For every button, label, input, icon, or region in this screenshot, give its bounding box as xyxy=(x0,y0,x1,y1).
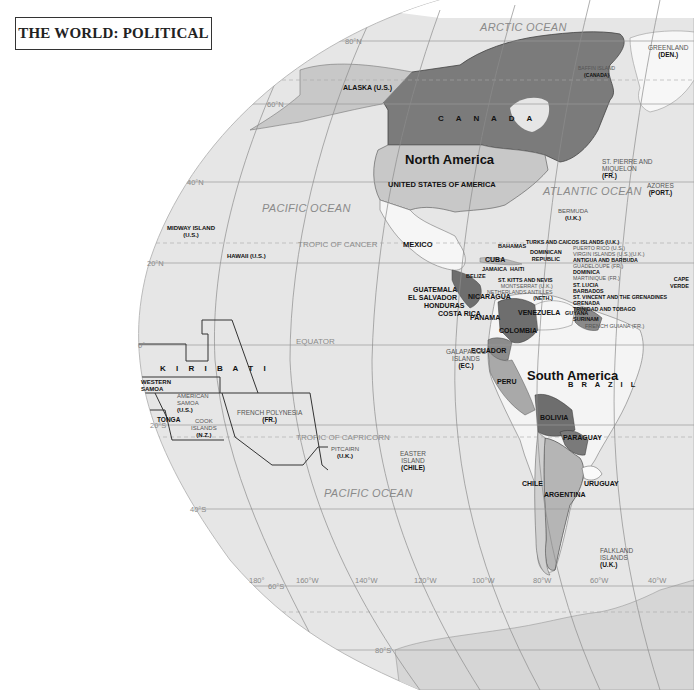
lat-60s: 60°S xyxy=(268,582,284,591)
paraguay-label: PARAGUAY xyxy=(563,434,602,441)
hawaii-label: HAWAII (U.S.) xyxy=(227,253,266,260)
lesser-antilles-list: PUERTO RICO (U.S.) VIRGIN ISLANDS (U.S.)… xyxy=(573,245,667,312)
easter-island-label: EASTER ISLAND (CHILE) xyxy=(400,450,426,471)
lat-80s: 80°S xyxy=(375,646,391,655)
equator-label: EQUATOR xyxy=(296,337,335,346)
st-pierre-miquelon-label: ST. PIERRE AND MIQUELON (FR.) xyxy=(602,158,653,179)
uruguay-label: URUGUAY xyxy=(584,480,619,487)
lat-20n: 20°N xyxy=(147,259,164,268)
haiti-label: HAITI xyxy=(510,266,524,273)
lon-180: 180° xyxy=(249,576,265,585)
map-title-box: THE WORLD: POLITICAL xyxy=(15,17,212,50)
lon-100w: 100°W xyxy=(472,576,495,585)
midway-island-label: MIDWAY ISLAND (U.S.) xyxy=(167,225,215,239)
cape-verde-label: CAPE VERDE xyxy=(670,276,689,290)
el-salvador-label: EL SALVADOR xyxy=(408,294,457,301)
map-title: THE WORLD: POLITICAL xyxy=(18,25,208,42)
cuba-label: CUBA xyxy=(485,256,505,263)
pacific-ocean-north-label: PACIFIC OCEAN xyxy=(262,202,351,214)
pacific-ocean-south-label: PACIFIC OCEAN xyxy=(324,487,413,499)
western-samoa-label: WESTERN SAMOA xyxy=(141,379,171,393)
colombia-label: COLOMBIA xyxy=(499,327,537,334)
belize-label: BELIZE xyxy=(466,273,486,280)
french-guiana-label: FRENCH GUIANA (FR.) xyxy=(585,323,644,330)
bolivia-label: BOLIVIA xyxy=(540,414,568,421)
tropic-of-capricorn-label: TROPIC OF CAPRICORN xyxy=(296,433,390,442)
world-map xyxy=(0,0,694,690)
greenland-label: GREENLAND (DEN.) xyxy=(648,44,688,58)
lon-60w: 60°W xyxy=(590,576,608,585)
guatemala-label: GUATEMALA xyxy=(413,286,457,293)
leeward-islands-labels: ST. KITTS AND NEVIS MONTSERRAT (U.K.) NE… xyxy=(487,277,553,301)
venezuela-label: VENEZUELA xyxy=(518,309,560,316)
falkland-islands-label: FALKLAND ISLANDS (U.K.) xyxy=(600,547,633,568)
brazil-label: B R A Z I L xyxy=(568,380,638,389)
lat-40s: 40°S xyxy=(190,505,206,514)
mexico-label: MEXICO xyxy=(403,241,433,248)
panama-label: PANAMA xyxy=(470,314,500,321)
tropic-of-cancer-label: TROPIC OF CANCER xyxy=(298,240,378,249)
canada-label: C A N A D A xyxy=(438,114,537,123)
atlantic-ocean-label: ATLANTIC OCEAN xyxy=(543,185,642,197)
lat-40n: 40°N xyxy=(187,178,204,187)
lat-80n: 80°N xyxy=(345,37,362,46)
lat-60n: 60°N xyxy=(267,100,284,109)
peru-label: PERU xyxy=(497,378,516,385)
surinam-label: SURINAM xyxy=(573,316,599,323)
cook-islands-label: COOK ISLANDS (N.Z.) xyxy=(191,418,217,439)
french-polynesia-label: FRENCH POLYNESIA (FR.) xyxy=(237,409,302,423)
north-america-label: North America xyxy=(405,152,494,167)
lat-0: 0° xyxy=(138,341,145,350)
lon-160w: 160°W xyxy=(296,576,319,585)
alaska-label: ALASKA (U.S.) xyxy=(343,84,392,91)
galapagos-label: GALAPAGOS ISLANDS (EC.) xyxy=(446,348,486,369)
tonga-label: TONGA xyxy=(157,416,180,423)
lon-40w: 40°W xyxy=(648,576,666,585)
dominican-republic-label: DOMINICAN REPUBLIC xyxy=(530,249,562,263)
lon-120w: 120°W xyxy=(414,576,437,585)
pitcairn-label: PITCAIRN (U.K.) xyxy=(331,446,359,460)
usa-label: UNITED STATES OF AMERICA xyxy=(388,181,496,188)
bahamas-label: BAHAMAS xyxy=(498,243,526,250)
jamaica-label: JAMAICA xyxy=(482,266,507,273)
azores-label: AZORES (PORT.) xyxy=(647,182,674,196)
baffin-island-label: BAFFIN ISLAND (CANADA) xyxy=(578,65,615,79)
bermuda-label: BERMUDA (U.K.) xyxy=(558,208,588,222)
lon-140w: 140°W xyxy=(355,576,378,585)
kiribati-label: K I R I B A T I xyxy=(160,364,270,373)
american-samoa-label: AMERICAN SAMOA (U.S.) xyxy=(177,393,209,414)
arctic-ocean-label: ARCTIC OCEAN xyxy=(480,21,567,33)
honduras-label: HONDURAS xyxy=(424,302,464,309)
chile-label: CHILE xyxy=(522,480,543,487)
argentina-label: ARGENTINA xyxy=(544,491,586,498)
lon-80w: 80°W xyxy=(533,576,551,585)
